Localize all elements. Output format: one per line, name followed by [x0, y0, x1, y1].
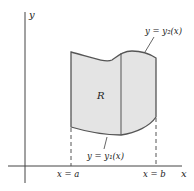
upper-curve-leader — [145, 37, 154, 52]
lower-curve-label: y = y₁(x) — [86, 151, 124, 161]
left-bound-label: x = a — [57, 169, 79, 179]
upper-curve-label: y = y₂(x) — [144, 26, 182, 36]
y-axis-label: y — [28, 9, 35, 20]
region-label: R — [96, 90, 105, 101]
right-bound-label: x = b — [143, 169, 166, 179]
region-r — [71, 51, 156, 135]
lower-curve-leader — [104, 137, 107, 149]
region-diagram: y x R y = y₂(x) y = y₁(x) x = a x = b — [0, 0, 194, 191]
x-axis-label: x — [181, 168, 187, 179]
